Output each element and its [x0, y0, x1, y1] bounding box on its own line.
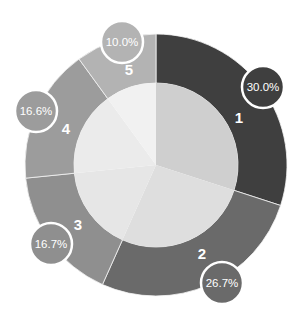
- segment-label-2: 2: [198, 245, 206, 262]
- percentage-label-1: 30.0%: [247, 81, 280, 93]
- percentage-badge-5: 10.0%: [101, 21, 143, 63]
- segment-label-4: 4: [62, 120, 71, 137]
- percentage-label-4: 16.6%: [20, 105, 53, 117]
- percentage-badge-2: 26.7%: [201, 262, 243, 304]
- percentage-label-2: 26.7%: [206, 277, 239, 289]
- percentage-badge-4: 16.6%: [15, 90, 57, 132]
- percentage-label-3: 16.7%: [35, 238, 68, 250]
- donut-chart: 1 2 3 4 5 30.0% 26.7% 16.7% 16.6% 10.0%: [0, 0, 306, 327]
- inner-pie: [74, 83, 238, 247]
- percentage-badge-3: 16.7%: [30, 223, 72, 265]
- segment-label-1: 1: [235, 109, 243, 126]
- segment-label-3: 3: [74, 216, 82, 233]
- percentage-label-5: 10.0%: [106, 36, 139, 48]
- percentage-badge-1: 30.0%: [242, 66, 284, 108]
